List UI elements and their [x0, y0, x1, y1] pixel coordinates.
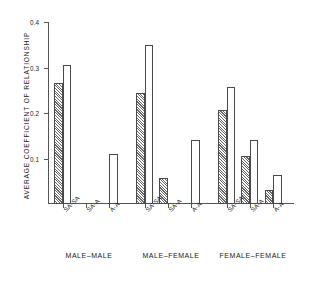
- bar-open: [250, 140, 259, 204]
- y-axis-label: AVERAGE COEFFICIENT OF RELATIONSHIP: [23, 26, 30, 206]
- bar-open: [109, 154, 118, 204]
- y-tick: [44, 113, 48, 114]
- chart-figure: AVERAGE COEFFICIENT OF RELATIONSHIP 0.10…: [0, 0, 312, 284]
- bar-open: [191, 140, 200, 204]
- group-label: MALE–FEMALE: [130, 252, 212, 259]
- y-tick-label: 0.2: [30, 110, 39, 117]
- y-axis-line: [48, 22, 49, 204]
- bar-hatched: [54, 83, 63, 204]
- y-tick-label: 0.4: [30, 19, 39, 26]
- group-label: FEMALE–FEMALE: [212, 252, 294, 259]
- y-tick: [44, 159, 48, 160]
- bar-open: [227, 87, 236, 204]
- group-label: MALE–MALE: [48, 252, 130, 259]
- bar-hatched: [136, 93, 145, 204]
- bar-hatched: [218, 110, 227, 204]
- plot-area: 0.10.20.30.4: [48, 22, 294, 204]
- bar-open: [63, 65, 72, 204]
- y-tick-label: 0.3: [30, 64, 39, 71]
- bar-open: [145, 45, 154, 204]
- y-tick: [44, 68, 48, 69]
- bar-open: [273, 175, 282, 204]
- bar-hatched: [265, 190, 274, 204]
- y-tick-label: 0.1: [30, 155, 39, 162]
- y-tick: [44, 22, 48, 23]
